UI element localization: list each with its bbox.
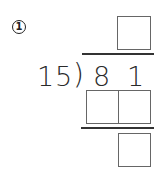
division-bracket: ) — [73, 61, 84, 89]
problem-number-text: 1 — [16, 22, 23, 32]
divisor-digit-ones: 5 — [55, 63, 72, 90]
product-tens-input-box[interactable] — [86, 90, 119, 124]
remainder-input-box[interactable] — [118, 133, 151, 167]
problem-number-badge: 1 — [12, 20, 26, 34]
dividend-digit-ones: 1 — [127, 63, 144, 90]
divisor-digit-tens: 1 — [37, 63, 54, 90]
quotient-input-box[interactable] — [117, 16, 151, 50]
subtraction-line — [81, 127, 154, 129]
division-overbar — [82, 53, 154, 55]
product-ones-input-box[interactable] — [118, 90, 151, 124]
dividend-digit-tens: 8 — [93, 63, 110, 90]
